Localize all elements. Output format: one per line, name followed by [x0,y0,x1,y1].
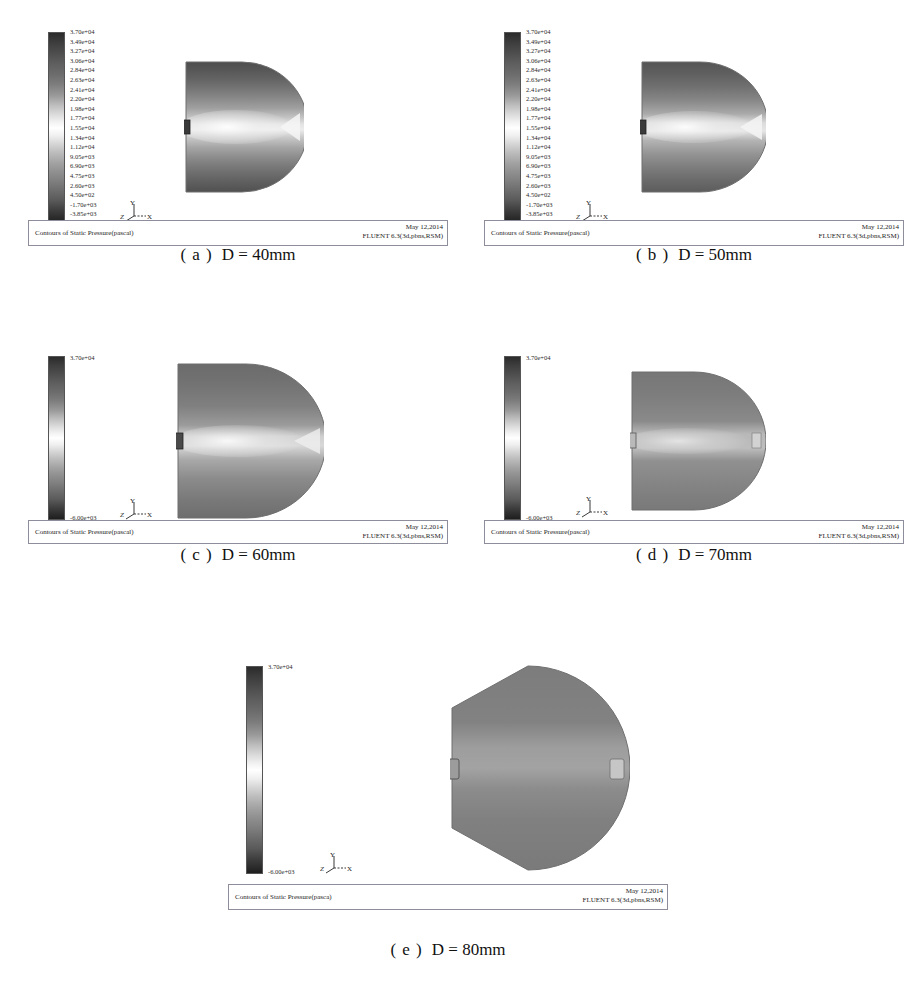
figure-page: { "page": { "clipped_header_text": "", "… [0,0,915,992]
footer-date-e: May 12,2014 [583,887,663,896]
footer-box-b: Contours of Static Pressure(pascal) May … [484,220,904,246]
colorbar-tick-label: 1.34e+04 [70,135,94,142]
contour-svg-d [630,370,766,512]
colorbar-tick-label: 2.60e+03 [70,183,94,190]
colorbar-tick-label: 1.77e+04 [70,115,94,122]
colorbar-min-label-e: -6.00e+03 [268,868,295,875]
colorbar-labels-b: 3.70e+043.49e+043.27e+043.06e+042.84e+04… [526,32,576,224]
colorbar-tick-label: 2.84e+04 [526,67,550,74]
colorbar-tick-label: -1.70e+03 [526,202,553,209]
colorbar-tick-label: 3.06e+04 [526,58,550,65]
colorbar-tick-label: 2.41e+04 [70,87,94,94]
outlet-nub-d [752,433,761,448]
axis-label-z: Z [120,511,124,519]
contour-svg-c [176,362,324,520]
clipped-header-strip [0,0,915,14]
axis-label-z: Z [320,865,324,873]
colorbar-tick-label: 2.84e+04 [70,67,94,74]
panel-a: 3.70e+043.49e+043.27e+043.06e+042.84e+04… [28,24,448,244]
footer-solver-c: FLUENT 6.3(3d,pbns,RSM) [363,532,443,541]
colorbar-tick-label: -3.85e+03 [526,211,553,218]
footer-title-c: Contours of Static Pressure(pascal) [35,528,134,536]
colorbar-tick-label: 6.90e+03 [526,163,550,170]
axis-triad-e: Y X Z [320,852,354,878]
axis-triad-d: Y X Z [576,496,610,522]
footer-solver-b: FLUENT 6.3(3d,pbns,RSM) [819,232,899,241]
colorbar-b [504,32,521,224]
caption-value-a: D = 40mm [222,245,296,264]
axis-label-x: X [603,509,608,517]
colorbar-a [48,32,65,224]
colorbar-tick-label: -1.70e+03 [70,202,97,209]
axis-label-y: Y [586,199,591,207]
colorbar-tick-label: 2.63e+04 [70,77,94,84]
footer-box-d: Contours of Static Pressure(pascal) May … [484,520,904,544]
footer-meta-b: May 12,2014 FLUENT 6.3(3d,pbns,RSM) [819,223,899,241]
axis-label-y: Y [586,495,591,503]
footer-meta-e: May 12,2014 FLUENT 6.3(3d,pbns,RSM) [583,887,663,905]
colorbar-tick-label: 1.77e+04 [526,115,550,122]
inlet-nub-c [176,433,183,449]
colorbar-tick-label: 3.06e+04 [70,58,94,65]
colorbar-tick-label: 3.70e+04 [526,29,550,36]
panel-b: 3.70e+043.49e+043.27e+043.06e+042.84e+04… [484,24,904,244]
colorbar-tick-label: 3.49e+04 [70,39,94,46]
outlet-nub-e [610,759,624,779]
inlet-nub-b [640,120,646,134]
contour-svg-a [184,60,304,194]
caption-value-e: D = 80mm [432,940,506,959]
colorbar-tick-label: 2.63e+04 [526,77,550,84]
footer-solver-e: FLUENT 6.3(3d,pbns,RSM) [583,896,663,905]
inlet-nub-d [630,433,636,448]
footer-title-e: Contours of Static Pressure(pasca) [235,893,332,901]
colorbar-tick-label: 4.50e+02 [526,192,550,199]
caption-b: ( b )D = 50mm [484,245,904,265]
footer-title-a: Contours of Static Pressure(pascal) [35,229,134,237]
colorbar-tick-label: 1.12e+04 [70,144,94,151]
footer-date-c: May 12,2014 [363,523,443,532]
caption-value-b: D = 50mm [678,245,752,264]
panel-e: 3.70e+04 -6.00e+03 Y X Z [228,650,668,912]
colorbar-tick-label: 3.49e+04 [526,39,550,46]
axis-label-x: X [147,511,152,519]
caption-index-c: ( c ) [180,545,212,564]
caption-index-d: ( d ) [636,545,669,564]
footer-date-b: May 12,2014 [819,223,899,232]
colorbar-tick-label: -3.85e+03 [70,211,97,218]
colorbar-max-label-e: 3.70e+04 [268,663,292,670]
footer-meta-d: May 12,2014 FLUENT 6.3(3d,pbns,RSM) [819,523,899,541]
caption-index-e: ( e ) [390,940,422,959]
footer-meta-a: May 12,2014 FLUENT 6.3(3d,pbns,RSM) [363,223,443,241]
colorbar-tick-label: 1.55e+04 [70,125,94,132]
colorbar-e [246,666,263,874]
colorbar-tick-label: 4.75e+03 [70,173,94,180]
contour-plot-d [630,370,766,512]
contour-plot-b [640,60,766,194]
colorbar-tick-label: 2.20e+04 [526,96,550,103]
colorbar-labels-a: 3.70e+043.49e+043.27e+043.06e+042.84e+04… [70,32,120,224]
panel-d: 3.70e+04 -6.00e+03 Y X Z [484,348,904,544]
footer-title-b: Contours of Static Pressure(pascal) [491,229,590,237]
caption-value-d: D = 70mm [678,545,752,564]
footer-date-d: May 12,2014 [819,523,899,532]
colorbar-tick-label: 2.60e+03 [526,183,550,190]
inlet-nub-a [184,120,190,134]
colorbar-tick-label: 1.55e+04 [526,125,550,132]
panel-c: 3.70e+04 -6.00e+03 Y X Z [28,348,448,544]
contour-plot-c [176,362,324,520]
colorbar-tick-label: 4.50e+02 [70,192,94,199]
footer-meta-c: May 12,2014 FLUENT 6.3(3d,pbns,RSM) [363,523,443,541]
caption-value-c: D = 60mm [222,545,296,564]
caption-e: ( e )D = 80mm [228,940,668,960]
colorbar-max-label-c: 3.70e+04 [70,354,94,361]
footer-box-e: Contours of Static Pressure(pasca) May 1… [228,884,668,910]
colorbar-tick-label: 3.27e+04 [70,48,94,55]
axis-label-z: Z [576,509,580,517]
colorbar-tick-label: 6.90e+03 [70,163,94,170]
contour-svg-e [450,664,630,872]
caption-index-b: ( b ) [636,245,669,264]
colorbar-tick-label: 9.05e+03 [70,154,94,161]
footer-solver-d: FLUENT 6.3(3d,pbns,RSM) [819,532,899,541]
footer-date-a: May 12,2014 [363,223,443,232]
colorbar-tick-label: 3.27e+04 [526,48,550,55]
